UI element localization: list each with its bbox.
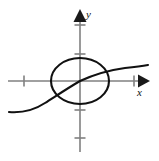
graph-figure: y x: [0, 0, 159, 161]
x-axis-label: x: [136, 86, 142, 98]
cubic-curve: [9, 65, 148, 112]
y-axis-arrow-icon: [74, 9, 87, 22]
coordinate-plane-svg: y x: [0, 0, 159, 161]
y-axis-label: y: [85, 8, 91, 20]
